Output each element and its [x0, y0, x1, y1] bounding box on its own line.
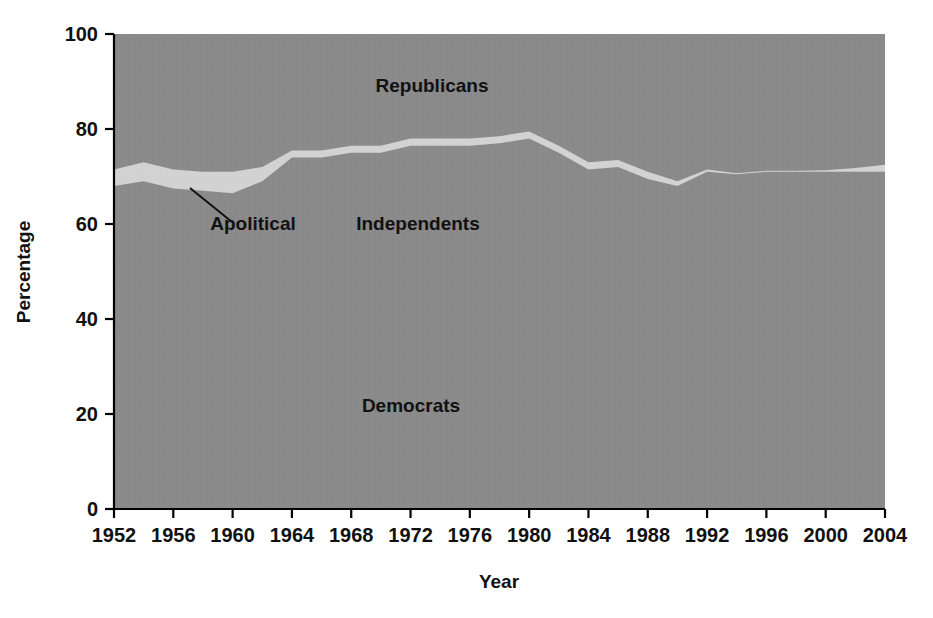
x-tick-label: 1996 [744, 524, 789, 546]
x-tick-label: 2000 [803, 524, 848, 546]
x-tick-label: 1988 [626, 524, 671, 546]
stacked-area-chart: 020406080100 195219561960196419681972197… [0, 0, 933, 618]
y-tick-label: 60 [76, 213, 98, 235]
y-tick-label: 100 [65, 23, 98, 45]
x-tick-label: 1968 [329, 524, 374, 546]
y-tick-label: 0 [87, 498, 98, 520]
y-axis-title: Percentage [13, 221, 34, 323]
y-tick-marks [105, 34, 114, 509]
x-tick-marks [114, 509, 885, 518]
chart-figure: 020406080100 195219561960196419681972197… [0, 0, 933, 618]
x-tick-label: 1992 [685, 524, 730, 546]
y-tick-label: 20 [76, 403, 98, 425]
x-tick-label: 1984 [566, 524, 611, 546]
plot-background [114, 34, 885, 509]
x-tick-label: 1960 [210, 524, 255, 546]
x-tick-label: 1964 [270, 524, 315, 546]
x-tick-label: 1972 [388, 524, 433, 546]
plot-area [114, 34, 885, 509]
x-tick-label: 1980 [507, 524, 552, 546]
x-tick-labels: 1952195619601964196819721976198019841988… [92, 524, 908, 546]
x-axis-title: Year [479, 571, 520, 592]
apolitical-label: Apolitical [210, 213, 296, 234]
y-tick-labels: 020406080100 [65, 23, 98, 520]
republicans-label: Republicans [376, 75, 489, 96]
x-tick-label: 1952 [92, 524, 137, 546]
x-tick-label: 1956 [151, 524, 196, 546]
y-tick-label: 80 [76, 118, 98, 140]
democrats-label: Democrats [362, 395, 460, 416]
independents-label: Independents [356, 213, 480, 234]
x-tick-label: 1976 [448, 524, 493, 546]
x-tick-label: 2004 [863, 524, 908, 546]
y-tick-label: 40 [76, 308, 98, 330]
